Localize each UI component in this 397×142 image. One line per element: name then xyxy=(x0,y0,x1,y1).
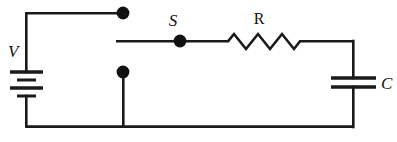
circuit-diagram: V S R C xyxy=(0,0,397,142)
switch-contact-dot xyxy=(174,35,187,48)
lower-terminal-dot xyxy=(117,66,130,79)
capacitor-label: C xyxy=(381,74,393,93)
circuit-schematic-canvas: V S R C xyxy=(0,0,397,142)
battery-label: V xyxy=(8,42,21,61)
resistor-component xyxy=(228,34,300,49)
resistor-zigzag-icon xyxy=(228,34,300,49)
switch-label: S xyxy=(169,11,178,30)
resistor-label: R xyxy=(254,10,265,27)
capacitor-component xyxy=(331,41,376,127)
battery-component xyxy=(10,13,43,126)
upper-terminal-dot xyxy=(117,7,130,20)
